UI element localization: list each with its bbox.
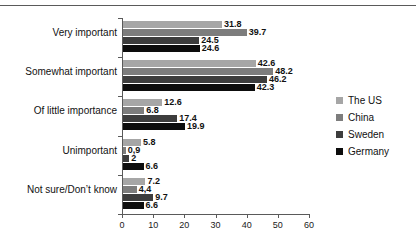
bar-value-label: 6.6: [144, 161, 159, 171]
x-axis-tick-label: 0: [119, 220, 124, 230]
chart-legend: The USChinaSwedenGermany: [336, 92, 389, 160]
bar-value-label: 2: [129, 153, 136, 163]
x-axis-tick-label: 50: [273, 220, 283, 230]
bar-value-label: 12.6: [162, 97, 182, 107]
bar-value-label: 31.8: [222, 19, 242, 29]
legend-swatch-icon: [336, 148, 343, 155]
category-label: Unimportant: [0, 145, 117, 156]
y-axis-tick: [118, 136, 122, 137]
bar[interactable]: [123, 21, 222, 28]
bar-value-label: 6.6: [144, 200, 159, 210]
bar[interactable]: [123, 76, 267, 83]
category-label: Not sure/Don’t know: [0, 184, 117, 195]
bar-value-label: 4,4: [137, 184, 152, 194]
legend-item[interactable]: The US: [336, 92, 389, 109]
y-axis-tick: [118, 18, 122, 19]
x-axis-tick: [122, 214, 123, 218]
bar[interactable]: [123, 202, 144, 209]
legend-item[interactable]: China: [336, 109, 389, 126]
legend-swatch-icon: [336, 97, 343, 104]
x-axis-tick-label: 10: [148, 220, 158, 230]
x-axis-tick: [153, 214, 154, 218]
bar-value-label: 39.7: [247, 27, 267, 37]
legend-swatch-icon: [336, 114, 343, 121]
bar[interactable]: [123, 68, 273, 75]
legend-swatch-icon: [336, 131, 343, 138]
bar[interactable]: [123, 186, 137, 193]
x-axis-tick: [309, 214, 310, 218]
chart-figure: 0102030405060 Very important31.839.724.5…: [0, 0, 416, 244]
legend-label: Sweden: [348, 129, 384, 140]
legend-item[interactable]: Sweden: [336, 126, 389, 143]
legend-item[interactable]: Germany: [336, 143, 389, 160]
bar-value-label: 5.8: [141, 137, 156, 147]
bar[interactable]: [123, 123, 185, 130]
bar[interactable]: [123, 84, 255, 91]
y-axis-tick: [118, 57, 122, 58]
category-label: Somewhat important: [0, 66, 117, 77]
bar[interactable]: [123, 107, 144, 114]
x-axis-tick: [247, 214, 248, 218]
x-axis-tick-label: 60: [304, 220, 314, 230]
legend-label: Germany: [348, 146, 389, 157]
category-label: Very important: [0, 27, 117, 38]
bar[interactable]: [123, 29, 247, 36]
bar[interactable]: [123, 163, 144, 170]
legend-label: China: [348, 112, 374, 123]
bar[interactable]: [123, 45, 200, 52]
x-axis-tick-label: 40: [242, 220, 252, 230]
bar[interactable]: [123, 60, 256, 67]
bar[interactable]: [123, 115, 177, 122]
x-axis-tick-label: 20: [179, 220, 189, 230]
top-divider: [0, 5, 416, 6]
bar-value-label: 6.8: [144, 105, 159, 115]
x-axis-tick: [216, 214, 217, 218]
x-axis-tick-label: 30: [210, 220, 220, 230]
x-axis-tick: [184, 214, 185, 218]
bar-value-label: 24.6: [200, 43, 220, 53]
y-axis-tick: [118, 96, 122, 97]
bar[interactable]: [123, 37, 199, 44]
category-label: Of little importance: [0, 105, 117, 116]
y-axis-tick: [118, 175, 122, 176]
bar-value-label: 19.9: [185, 121, 205, 131]
x-axis-tick: [278, 214, 279, 218]
legend-label: The US: [348, 95, 382, 106]
bar-value-label: 42.3: [255, 82, 275, 92]
